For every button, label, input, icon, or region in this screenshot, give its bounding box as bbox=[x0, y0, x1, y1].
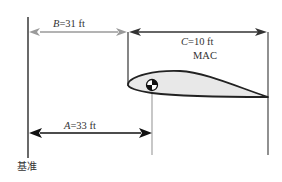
diagram-canvas bbox=[0, 0, 282, 182]
dimension-a-label: A=33 ft bbox=[64, 121, 96, 132]
dimension-b-value: =31 ft bbox=[59, 18, 84, 29]
datum-label: 基准 bbox=[17, 162, 37, 172]
dimension-a-value: =33 ft bbox=[70, 120, 95, 131]
dimension-c-value: =10 ft bbox=[188, 36, 213, 47]
cg-symbol-icon bbox=[147, 80, 158, 91]
dimension-c-label: C=10 ft bbox=[181, 37, 213, 48]
mac-label: MAC bbox=[193, 51, 217, 62]
dimension-c-var: C bbox=[181, 36, 188, 47]
dimension-b-label: B=31 ft bbox=[53, 19, 85, 30]
